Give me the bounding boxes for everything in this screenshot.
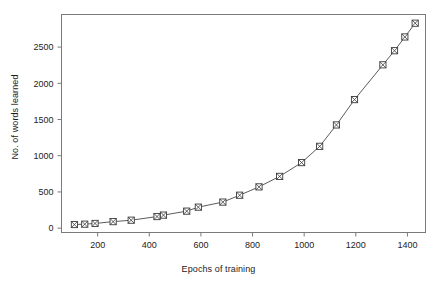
data-point-marker[interactable] [333, 122, 339, 128]
data-point-marker[interactable] [154, 213, 160, 219]
y-axis-tick-label: 1000 [33, 151, 53, 161]
data-point-marker[interactable] [92, 220, 98, 226]
data-point-marker[interactable] [160, 212, 166, 218]
data-point-marker[interactable] [220, 199, 226, 205]
data-point-marker[interactable] [184, 208, 190, 214]
data-point-marker[interactable] [237, 192, 243, 198]
x-axis-tick-label: 1400 [397, 240, 417, 250]
x-axis-title: Epochs of training [0, 264, 437, 274]
data-point-marker[interactable] [380, 62, 386, 68]
x-axis-tick-label: 600 [193, 240, 208, 250]
x-axis-tick-label: 200 [90, 240, 105, 250]
data-point-marker[interactable] [277, 173, 283, 179]
x-axis-tick-label: 1000 [294, 240, 314, 250]
y-axis-tick-label: 2500 [33, 42, 53, 52]
x-axis-tick-label: 800 [245, 240, 260, 250]
y-axis-title-wrapper: No. of words learned [10, 52, 24, 182]
line-chart-plot: 2004006008001000120014000500100015002000… [0, 0, 437, 288]
data-line [74, 23, 415, 224]
plot-frame [62, 15, 426, 233]
data-point-marker[interactable] [110, 219, 116, 225]
y-axis-tick-label: 0 [48, 223, 53, 233]
data-point-marker[interactable] [351, 96, 357, 102]
data-point-marker[interactable] [128, 217, 134, 223]
x-axis-tick-label: 1200 [346, 240, 366, 250]
x-axis-tick-label: 400 [142, 240, 157, 250]
y-axis-tick-label: 500 [38, 187, 53, 197]
data-point-marker[interactable] [82, 221, 88, 227]
data-point-marker[interactable] [391, 48, 397, 54]
data-point-marker[interactable] [298, 160, 304, 166]
y-axis-tick-label: 2000 [33, 79, 53, 89]
data-point-marker[interactable] [317, 143, 323, 149]
data-point-marker[interactable] [195, 204, 201, 210]
data-point-marker[interactable] [402, 34, 408, 40]
y-axis-tick-label: 1500 [33, 115, 53, 125]
data-point-marker[interactable] [256, 184, 262, 190]
data-point-marker[interactable] [71, 221, 77, 227]
y-axis-title: No. of words learned [10, 52, 20, 182]
chart-figure: 2004006008001000120014000500100015002000… [0, 0, 437, 288]
data-point-marker[interactable] [412, 20, 418, 26]
